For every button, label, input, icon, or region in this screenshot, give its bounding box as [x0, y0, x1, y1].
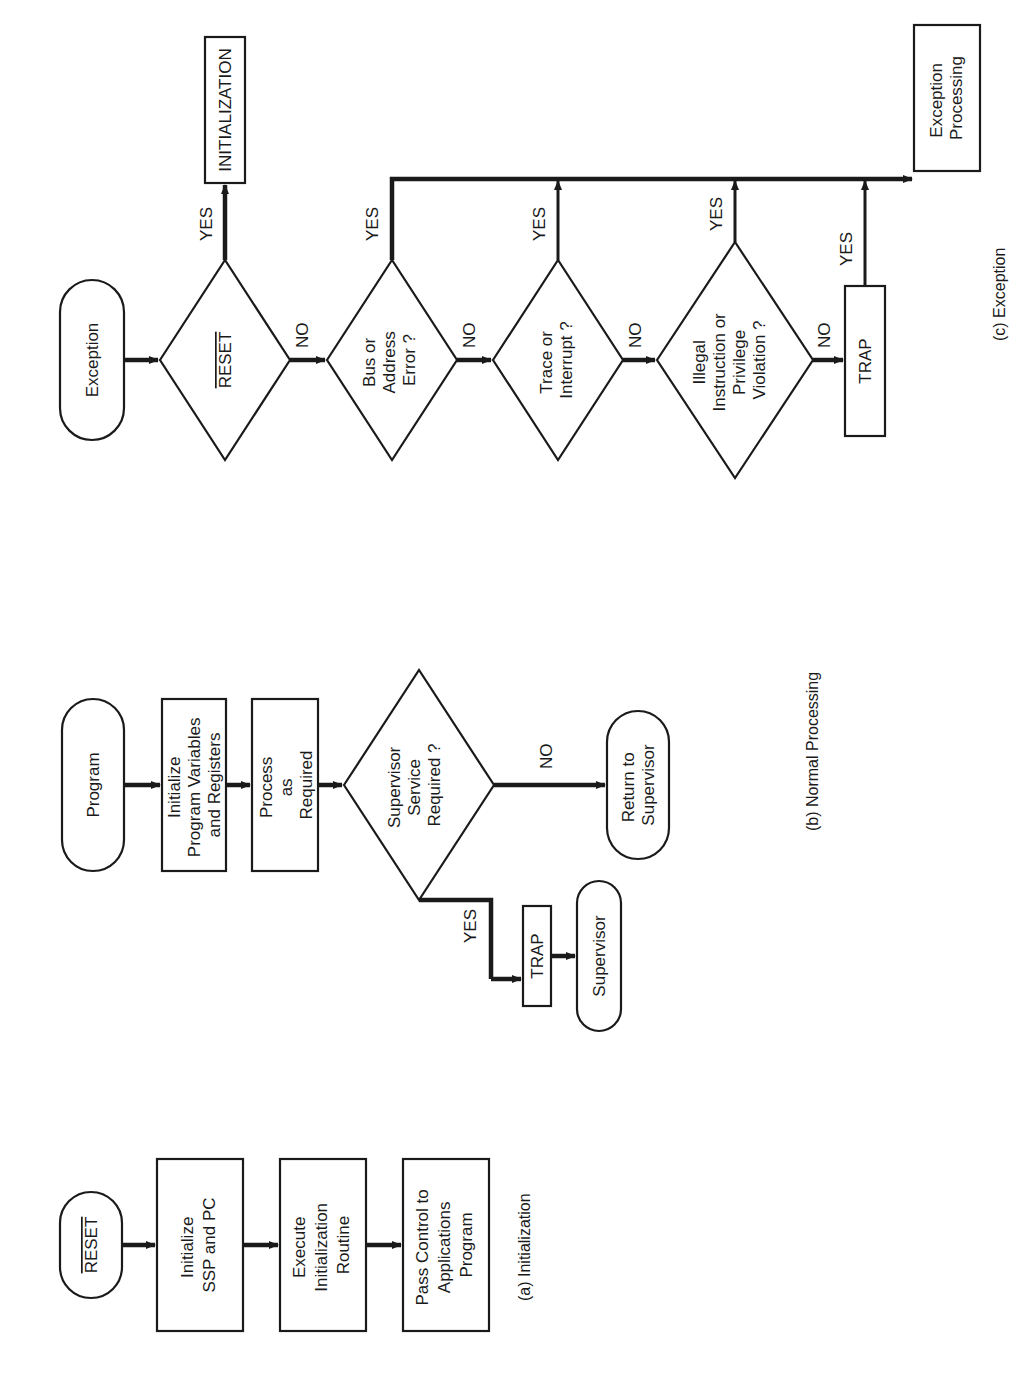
- exception-processing-text: Exception Processing: [927, 56, 966, 140]
- program-label: Program: [84, 752, 103, 817]
- yes-label: YES: [707, 197, 726, 231]
- trap-label-c: TRAP: [856, 338, 875, 383]
- no-label: NO: [293, 323, 312, 349]
- trap-label-b: TRAP: [528, 933, 547, 978]
- no-label: NO: [537, 744, 556, 770]
- yes-label: YES: [837, 232, 856, 266]
- yes-label: YES: [363, 207, 382, 241]
- no-label: NO: [626, 323, 645, 349]
- no-label: NO: [815, 323, 834, 349]
- no-label: NO: [460, 323, 479, 349]
- bus-error-yes-line: [392, 179, 905, 260]
- reset-yes-label: YES: [197, 207, 216, 241]
- return-to-supervisor-terminal: [607, 711, 669, 859]
- caption-a: (a) Initialization: [516, 1193, 533, 1301]
- reset-decision-label: RESET: [216, 332, 235, 389]
- flowchart-figure: RESET Initialize SSP and PC Execute Init…: [0, 0, 1026, 1391]
- trace-interrupt-text: Trace or Interrupt ?: [537, 321, 576, 399]
- caption-b: (b) Normal Processing: [804, 672, 821, 831]
- exception-label: Exception: [83, 323, 102, 398]
- initialization-label: INITIALIZATION: [216, 48, 235, 171]
- caption-c: (c) Exception: [991, 248, 1008, 341]
- panel-exception: Exception RESET YES INITIALIZATION NO Bu…: [60, 25, 1008, 478]
- supervisor-service-text: Supervisor Service Required ?: [385, 742, 444, 828]
- yes-arrow: [419, 900, 491, 979]
- reset-label: RESET: [82, 1217, 101, 1274]
- bus-address-error-text: Bus or Address Error ?: [360, 326, 419, 393]
- panel-normal-processing: Program Initialize Program Variables and…: [62, 670, 821, 1031]
- yes-label: YES: [461, 909, 480, 943]
- panel-initialization: RESET Initialize SSP and PC Execute Init…: [60, 1159, 533, 1331]
- return-to-supervisor-text: Return to Supervisor: [619, 744, 658, 826]
- yes-label: YES: [530, 207, 549, 241]
- supervisor-label: Supervisor: [590, 915, 609, 997]
